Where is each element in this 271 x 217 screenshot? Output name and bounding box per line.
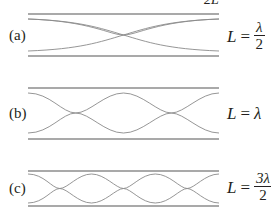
wave-envelope-b1	[28, 93, 219, 133]
wave-envelope-b2	[28, 93, 219, 133]
eq-denominator: 2	[259, 187, 267, 203]
eq-lhs: L	[227, 179, 236, 196]
eq-denominator: 2	[256, 36, 264, 52]
wave-envelope-c2	[28, 174, 219, 203]
wave-envelope-a2	[28, 19, 219, 51]
eq-value: λ	[254, 105, 261, 122]
equation-c: L = 3λ 2	[227, 171, 271, 203]
panel-b-tube	[28, 88, 219, 139]
eq-op: =	[240, 28, 250, 45]
eq-op: =	[240, 179, 250, 196]
eq-numerator: λ	[254, 20, 265, 35]
eq-lhs: L	[227, 105, 236, 122]
equation-a: L = λ 2	[227, 20, 265, 52]
eq-fraction: λ 2	[254, 20, 265, 52]
panel-c-tube	[28, 171, 219, 206]
panel-a-tube	[28, 14, 219, 56]
panel-label-a: (a)	[9, 28, 26, 43]
eq-lhs: L	[227, 28, 236, 45]
eq-numerator: 3λ	[254, 171, 271, 186]
wave-envelope-upper	[28, 19, 219, 35]
panel-label-b: (b)	[9, 106, 27, 121]
eq-op: =	[240, 105, 250, 122]
equation-b: L = λ	[227, 105, 261, 122]
eq-fraction: 3λ 2	[254, 171, 271, 203]
panel-label-c: (c)	[9, 181, 26, 196]
